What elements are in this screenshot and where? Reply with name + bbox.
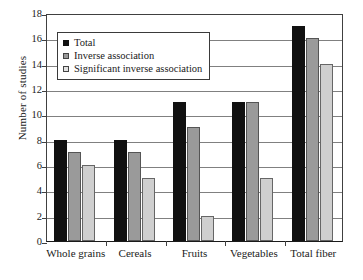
y-axis-tick-label: 16: [20, 34, 42, 44]
bar-group: [292, 15, 333, 241]
bar: [54, 140, 67, 241]
chart-legend: Total Inverse association Significant in…: [57, 32, 210, 80]
bar: [232, 102, 245, 241]
legend-label-total: Total: [74, 37, 95, 48]
x-axis-category-label: Total fiber: [284, 247, 343, 259]
y-axis-tick-mark: [42, 243, 47, 244]
x-axis-tick-mark: [106, 241, 107, 246]
bar: [246, 102, 259, 241]
y-axis-tick-label: 2: [20, 212, 42, 222]
bar-group: [232, 15, 273, 241]
y-axis-tick-label: 8: [20, 136, 42, 146]
bar: [306, 38, 319, 241]
bar: [173, 102, 186, 241]
x-axis-tick-mark: [166, 241, 167, 246]
y-axis-tick-label: 12: [20, 85, 42, 95]
y-axis-tick-label: 10: [20, 110, 42, 120]
x-axis-tick-mark: [225, 241, 226, 246]
y-axis-tick-label: 0: [20, 237, 42, 247]
bar: [187, 127, 200, 241]
bar: [68, 152, 81, 241]
x-axis-category-label: Cereals: [105, 247, 164, 259]
legend-item-total: Total: [63, 36, 202, 49]
y-axis-tick-label: 18: [20, 9, 42, 19]
bar: [142, 178, 155, 241]
x-axis-category-label: Fruits: [165, 247, 224, 259]
bar: [128, 152, 141, 241]
bar: [114, 140, 127, 241]
bar: [292, 26, 305, 241]
bar: [82, 165, 95, 241]
x-axis-category-label: Vegetables: [224, 247, 283, 259]
y-axis-tick-labels: 024681012141618: [20, 14, 42, 242]
legend-swatch-significant-inverse-association-icon: [63, 66, 69, 72]
x-axis-category-label: Whole grains: [46, 247, 105, 259]
y-axis-tick-label: 14: [20, 60, 42, 70]
y-axis-tick-label: 4: [20, 186, 42, 196]
legend-item-significant-inverse-association: Significant inverse association: [63, 62, 202, 75]
bar: [260, 178, 273, 241]
bar-chart: Number of studies 024681012141618 Whole …: [0, 0, 363, 280]
y-axis-tick-label: 6: [20, 161, 42, 171]
bar: [320, 64, 333, 241]
bar: [201, 216, 214, 241]
legend-swatch-inverse-association-icon: [63, 53, 69, 59]
legend-swatch-total-icon: [63, 40, 69, 46]
legend-item-inverse-association: Inverse association: [63, 49, 202, 62]
legend-label-significant-inverse-association: Significant inverse association: [74, 63, 202, 74]
x-axis-category-labels: Whole grainsCerealsFruitsVegetablesTotal…: [46, 247, 343, 267]
legend-label-inverse-association: Inverse association: [74, 50, 154, 61]
x-axis-tick-mark: [285, 241, 286, 246]
